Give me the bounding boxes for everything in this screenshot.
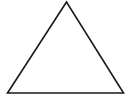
diagram-canvas [0, 0, 132, 102]
triangle-shape [8, 2, 124, 93]
